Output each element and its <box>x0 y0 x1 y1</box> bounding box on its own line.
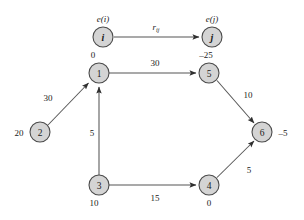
legend-node-i-label: i <box>102 32 105 43</box>
figure-canvas: e(i) e(j) rij i j <box>0 0 304 220</box>
legend-source-excess-label: e(i) <box>97 14 110 24</box>
edge-2-to-1 <box>48 83 89 125</box>
node-5-label: 5 <box>207 69 212 79</box>
node-6-excess: –5 <box>278 128 289 138</box>
legend-edge-capacity-label: rij <box>153 22 160 33</box>
node-5-excess: –25 <box>198 50 213 60</box>
node-2-label: 2 <box>38 128 43 138</box>
node-1-excess: 0 <box>91 50 96 60</box>
edge-weight-labels: 30 5 30 10 15 5 <box>44 58 254 203</box>
edge-weight-1-5: 30 <box>151 58 161 68</box>
node-4-label: 4 <box>207 181 212 191</box>
node-6-label: 6 <box>260 128 265 138</box>
node-3-excess: 10 <box>90 198 100 208</box>
legend-group: e(i) e(j) rij i j <box>93 14 222 47</box>
edge-weight-4-6: 5 <box>247 165 252 175</box>
edge-weight-5-6: 10 <box>244 90 254 100</box>
legend-capacity-subscript: ij <box>156 26 160 33</box>
residual-network-diagram: e(i) e(j) rij i j <box>0 0 304 220</box>
edge-5-to-6 <box>217 81 254 124</box>
edges-group <box>48 73 254 185</box>
edge-weight-3-1: 5 <box>90 128 95 138</box>
node-1-label: 1 <box>97 69 102 79</box>
edge-weight-3-4: 15 <box>151 193 161 203</box>
node-3-label: 3 <box>97 181 102 191</box>
edge-weight-2-1: 30 <box>44 93 54 103</box>
legend-target-excess-label: e(j) <box>206 14 219 24</box>
nodes-group: 1 0 2 20 3 10 4 0 5 –25 6 –5 <box>15 50 289 208</box>
node-2-excess: 20 <box>15 128 25 138</box>
node-4-excess: 0 <box>207 198 212 208</box>
